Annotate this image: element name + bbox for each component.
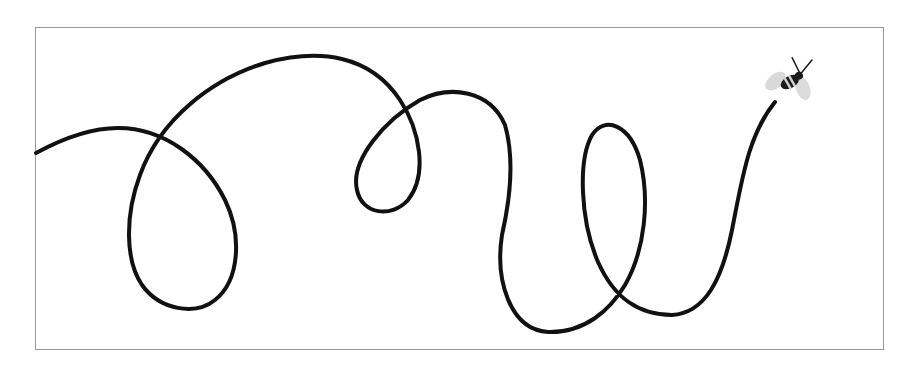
- bee-antenna: [798, 60, 815, 73]
- flight-trail-path: [36, 56, 775, 332]
- bee-antenna: [791, 58, 800, 72]
- bee-icon: [758, 50, 828, 117]
- illustration-canvas: [0, 0, 915, 371]
- bee-trail-drawing: [0, 0, 915, 371]
